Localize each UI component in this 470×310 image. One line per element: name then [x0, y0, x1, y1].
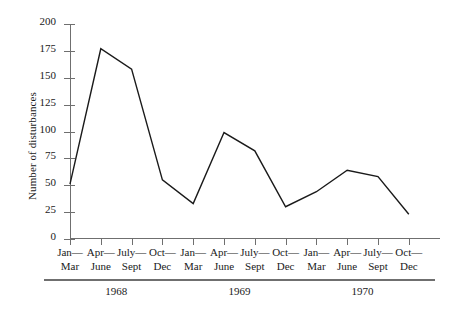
y-axis-tick-label: 75	[45, 150, 56, 161]
x-axis-tick	[316, 238, 317, 245]
y-axis-tick-label: 100	[40, 124, 57, 135]
y-axis-tick-label: 25	[45, 204, 56, 215]
x-axis-tick	[193, 238, 194, 245]
year-group-label: 1970	[290, 284, 434, 298]
x-axis-tick	[286, 238, 287, 245]
plot-area: 0255075100125150175200	[70, 24, 440, 239]
x-axis-tick	[162, 238, 163, 245]
y-axis-tick-label: 175	[40, 43, 57, 54]
series-line-disturbances	[70, 24, 440, 239]
x-axis-tick	[255, 238, 256, 245]
x-axis-tick	[347, 238, 348, 245]
x-tick-label-line1: Oct—	[377, 246, 441, 260]
year-group-bar	[290, 279, 434, 281]
y-axis-tick-label: 125	[40, 97, 57, 108]
y-axis-tick-label: 0	[51, 231, 57, 242]
x-axis-tick	[101, 238, 102, 245]
chart-figure: Number of disturbances 02550751001251501…	[0, 0, 470, 310]
y-axis-tick-label: 50	[45, 177, 56, 188]
x-axis-tick	[378, 238, 379, 245]
x-axis-tick	[409, 238, 410, 245]
x-axis-tick	[224, 238, 225, 245]
x-tick-label-line2: Dec	[377, 260, 441, 274]
x-axis-tick	[70, 238, 71, 245]
y-axis-tick-label: 150	[40, 70, 57, 81]
x-axis-tick-label: Oct—Dec	[377, 246, 441, 273]
x-axis-tick	[132, 238, 133, 245]
y-axis-tick-label: 200	[40, 16, 57, 27]
